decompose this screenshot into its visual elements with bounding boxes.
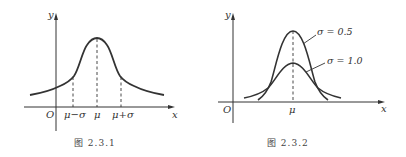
tick-label-mu: μ (289, 105, 296, 115)
y-axis-arrow-icon (231, 13, 235, 20)
curve-label-sigma-0-5: σ = 0.5 (317, 27, 353, 37)
x-axis-label: x (381, 104, 387, 114)
figure-caption: 图 2.3.1 (74, 139, 116, 148)
curve-label-sigma-1-0: σ = 1.0 (327, 56, 363, 66)
tick-label-mu: μ (94, 110, 101, 120)
curve-sigma-1-0 (244, 63, 341, 98)
figure-2-3-2 (218, 13, 385, 123)
leader-sigma-1-0 (306, 63, 325, 72)
figure-caption: 图 2.3.2 (267, 139, 309, 148)
origin-label: O (46, 110, 54, 120)
y-axis-arrow-icon (54, 13, 58, 20)
leader-sigma-0-5 (303, 35, 316, 44)
y-axis-label: y (48, 10, 54, 20)
x-axis-label: x (172, 110, 178, 120)
tick-label-mu-plus-sigma: μ+σ (112, 110, 134, 120)
y-axis-label: y (225, 10, 231, 20)
origin-label: O (223, 105, 231, 115)
tick-label-mu-minus-sigma: μ−σ (64, 110, 86, 120)
figures-canvas (0, 0, 406, 157)
